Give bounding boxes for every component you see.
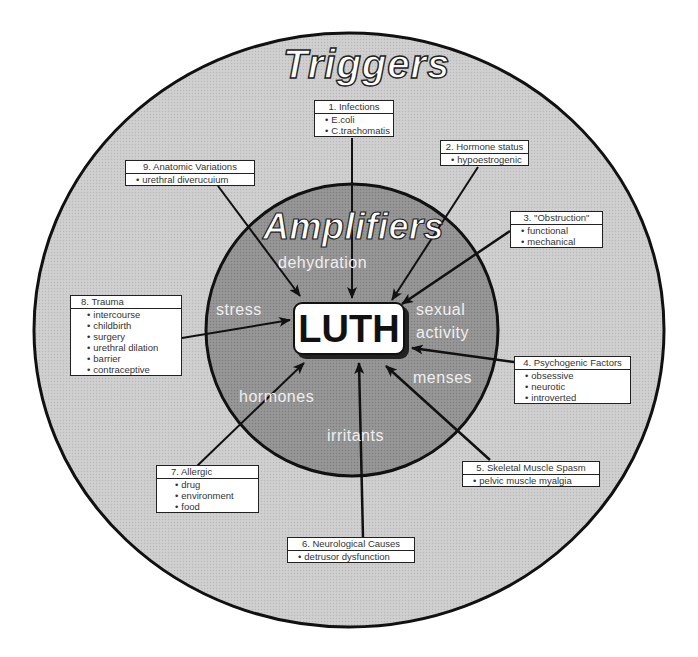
trigger-box-hormone-status: 2. Hormone status hypoestrogenic — [440, 140, 529, 166]
trigger-item: urethral diverucuium — [136, 174, 250, 185]
trigger-box-psychogenic-factors: 4. Psychogenic Factors obsessiveneurotic… — [514, 356, 631, 404]
luth-center-box: LUTH — [293, 302, 405, 355]
trigger-item: environment — [175, 490, 254, 501]
amplifier-hormones: hormones — [239, 388, 314, 405]
trigger-item: detrusor dysfunction — [298, 551, 410, 562]
triggers-title: Triggers — [283, 42, 450, 87]
trigger-item: C.trachomatis — [325, 125, 389, 136]
trigger-box-allergic: 7. Allergic drugenvironmentfood — [156, 465, 259, 513]
trigger-item: E.coli — [325, 114, 389, 125]
trigger-title: 7. Allergic — [157, 466, 258, 479]
luth-diagram: Triggers Amplifiers dehydration stress s… — [0, 0, 698, 657]
trigger-title: 5. Skeletal Muscle Spasm — [463, 462, 599, 475]
trigger-item: functional — [521, 225, 598, 236]
trigger-title: 2. Hormone status — [441, 141, 528, 154]
trigger-item: neurotic — [525, 381, 626, 392]
trigger-item: drug — [175, 479, 254, 490]
trigger-item: obsessive — [525, 370, 626, 381]
trigger-title: 9. Anatomic Variations — [126, 161, 254, 174]
trigger-item: food — [175, 501, 254, 512]
trigger-item: childbirth — [87, 320, 177, 331]
amplifier-stress: stress — [216, 301, 262, 318]
trigger-box-anatomic-variations: 9. Anatomic Variations urethral diverucu… — [125, 160, 255, 186]
trigger-item: intercourse — [87, 309, 177, 320]
trigger-item: mechanical — [521, 236, 598, 247]
trigger-item: barrier — [87, 353, 177, 364]
amplifier-dehydration: dehydration — [278, 254, 367, 271]
trigger-item: surgery — [87, 331, 177, 342]
trigger-box-skeletal-muscle-spasm: 5. Skeletal Muscle Spasm pelvic muscle m… — [462, 461, 600, 487]
trigger-box-obstruction: 3. "Obstruction" functionalmechanical — [510, 211, 603, 248]
trigger-title: 4. Psychogenic Factors — [515, 357, 630, 370]
trigger-title: 8. Trauma — [71, 296, 181, 309]
trigger-item: pelvic muscle myalgia — [473, 475, 595, 486]
trigger-item: contraceptive — [87, 364, 177, 375]
trigger-box-trauma: 8. Trauma intercourse childbirth surgery… — [70, 295, 182, 376]
trigger-item: hypoestrogenic — [451, 154, 524, 165]
amplifiers-title: Amplifiers — [263, 206, 444, 248]
luth-label: LUTH — [298, 308, 399, 350]
trigger-title: 1. Infections — [315, 101, 393, 114]
trigger-box-infections: 1. Infections E.coliC.trachomatis — [314, 100, 394, 137]
amplifier-menses: menses — [413, 369, 472, 386]
amplifier-sexual: sexual — [416, 301, 465, 318]
trigger-title: 6. Neurological Causes — [288, 538, 414, 551]
amplifier-activity: activity — [416, 324, 469, 341]
trigger-title: 3. "Obstruction" — [511, 212, 602, 225]
trigger-item: introverted — [525, 392, 626, 403]
trigger-box-neurological-causes: 6. Neurological Causes detrusor dysfunct… — [287, 537, 415, 563]
trigger-item: urethral dilation — [87, 342, 177, 353]
amplifier-irritants: irritants — [327, 427, 384, 444]
